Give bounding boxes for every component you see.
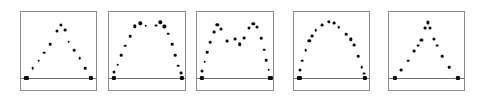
data-point [24,76,28,80]
panel-triangular-peak [20,11,97,91]
data-point [432,38,435,41]
data-point [112,76,116,80]
data-point [116,64,119,67]
data-point [263,48,266,51]
data-point [301,60,304,63]
data-point [120,54,123,57]
data-point [363,76,367,80]
data-point [321,23,324,26]
data-point [420,38,423,41]
panel-smooth-dome [293,11,370,91]
data-point [159,21,162,24]
data-point [163,25,166,28]
data-point [113,71,116,74]
baseline-axis [294,78,369,79]
data-point [154,24,157,27]
data-point [226,39,229,42]
plot-area [109,12,185,90]
data-point [234,38,237,41]
data-point [393,76,397,80]
data-point [360,66,363,69]
data-point [167,32,170,35]
data-point [413,50,416,53]
data-point [206,51,209,54]
data-point [37,60,40,63]
panel-bimodal-dip [196,11,274,91]
data-point [327,20,330,23]
data-point [428,27,431,30]
panel-sharp-narrow-peak [388,11,465,91]
data-point [174,54,177,57]
data-point [63,29,66,32]
plot-area [21,12,96,90]
plot-area [389,12,464,90]
data-point [201,70,204,73]
data-point [144,24,147,27]
data-point [304,49,307,52]
data-point [124,44,127,47]
data-point [314,29,317,32]
data-point [435,44,438,47]
data-point [424,27,427,30]
data-point [256,26,259,29]
data-point [400,69,403,72]
baseline-axis [197,78,273,79]
data-point [299,69,302,72]
data-point [204,60,207,63]
figure-container [0,0,480,104]
data-point [297,76,301,80]
data-point [337,26,340,29]
baseline-axis [389,78,464,79]
data-point [238,42,242,46]
data-point [179,71,182,74]
data-point [251,22,254,25]
data-point [56,30,59,33]
data-point [133,25,136,28]
data-point [310,35,313,38]
baseline-axis [21,78,96,79]
data-point [441,55,444,58]
data-point [242,37,245,40]
data-point [265,59,268,62]
data-point [426,21,429,24]
data-point [200,76,204,80]
panel-flat-top-plateau [108,11,186,91]
data-point [67,40,70,43]
data-point [268,76,272,80]
data-point [209,41,212,44]
data-point [349,37,352,40]
data-point [448,66,451,69]
data-point [73,49,76,52]
data-point [84,67,87,70]
data-point [248,27,251,30]
data-point [267,68,270,71]
data-point [177,64,180,67]
data-point [308,39,311,42]
data-point [455,76,459,80]
data-point [31,67,34,70]
plot-area [197,12,273,90]
plot-area [294,12,369,90]
data-point [43,52,46,55]
data-point [417,44,420,47]
data-point [345,33,348,36]
data-point [89,76,93,80]
data-point [59,23,62,26]
data-point [333,22,336,25]
data-point [216,23,219,26]
data-point [407,60,410,63]
data-point [213,31,216,34]
baseline-axis [109,78,185,79]
data-point [357,55,360,58]
data-point [78,57,81,60]
data-point [220,27,223,30]
data-point [260,37,263,40]
data-point [171,43,174,46]
data-point [129,35,132,38]
data-point [353,43,356,46]
data-point [138,21,141,24]
data-point [179,76,183,80]
data-point [49,43,52,46]
